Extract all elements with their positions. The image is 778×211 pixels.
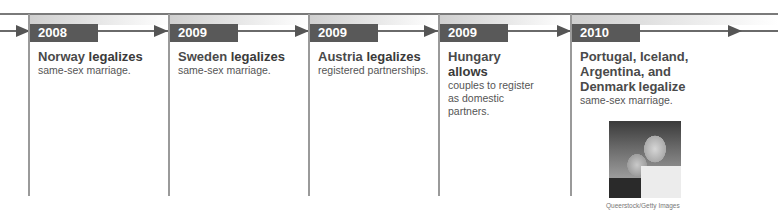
- year-label: 2009: [170, 24, 238, 42]
- entry-headline: Norway legalizes: [38, 49, 183, 64]
- entry-verb: legalizes: [231, 49, 285, 64]
- entry-text: Sweden legalizes same-sex marriage.: [178, 49, 323, 77]
- entry-headline: Hungary allows: [448, 49, 543, 79]
- year-label: 2010: [572, 24, 640, 42]
- entry-detail: same-sex marriage.: [38, 64, 183, 77]
- entry-verb: legalize: [639, 79, 686, 94]
- entry-subject: Norway: [38, 49, 85, 64]
- entry-verb: allows: [448, 64, 488, 79]
- entry-detail: couples to register as domestic partners…: [448, 79, 543, 118]
- couple-photo: [609, 121, 681, 198]
- year-label: 2009: [310, 24, 378, 42]
- entry-subject: Sweden: [178, 49, 227, 64]
- entry-text: Portugal, Iceland, Argentina, and Denmar…: [580, 49, 715, 107]
- entry-verb: legalizes: [366, 49, 420, 64]
- timeline-entry-2009-hungary: 2009 Hungary allows couples to register …: [438, 14, 570, 196]
- timeline-entry-2009-austria: 2009 Austria legalizes registered partne…: [308, 14, 438, 196]
- entry-detail: same-sex marriage.: [580, 94, 673, 106]
- entry-verb: legalizes: [89, 49, 143, 64]
- entry-detail: same-sex marriage.: [178, 64, 323, 77]
- year-label: 2009: [440, 24, 508, 42]
- photo-detail: [641, 166, 681, 198]
- photo-credit: Queerstock/Getty Images: [606, 202, 680, 209]
- entry-subject: Austria: [318, 49, 363, 64]
- entry-subject: Hungary: [448, 49, 501, 64]
- entry-headline: Sweden legalizes: [178, 49, 323, 64]
- entry-text: Norway legalizes same-sex marriage.: [38, 49, 183, 77]
- timeline-entry-2008-norway: 2008 Norway legalizes same-sex marriage.: [28, 14, 168, 196]
- timeline-entry-2010-multiple: 2010 Portugal, Iceland, Argentina, and D…: [570, 14, 778, 196]
- timeline-entry-2009-sweden: 2009 Sweden legalizes same-sex marriage.: [168, 14, 308, 196]
- year-label: 2008: [30, 24, 98, 42]
- entry-text: Hungary allows couples to register as do…: [448, 49, 543, 118]
- photo-detail: [609, 178, 641, 198]
